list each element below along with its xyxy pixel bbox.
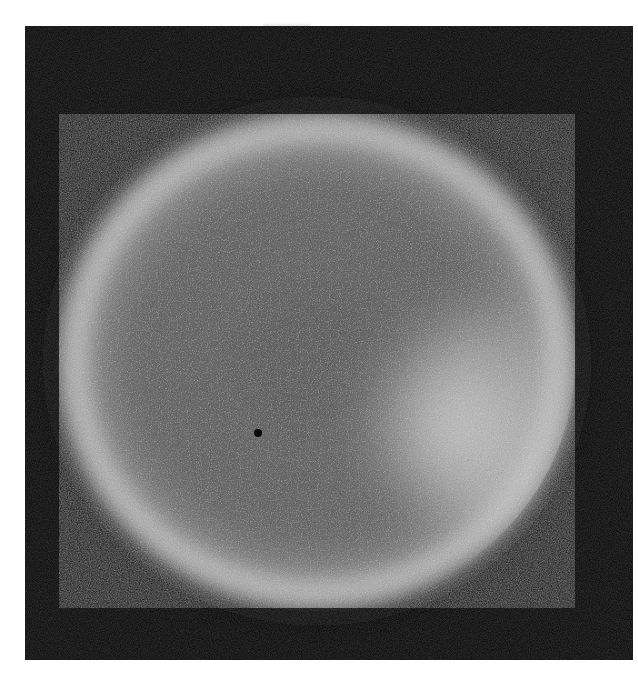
dark-spot	[254, 429, 262, 437]
photo-frame	[25, 26, 633, 660]
film-grain	[25, 26, 633, 660]
sphere-photo	[25, 26, 633, 660]
photograph-page	[0, 0, 638, 673]
